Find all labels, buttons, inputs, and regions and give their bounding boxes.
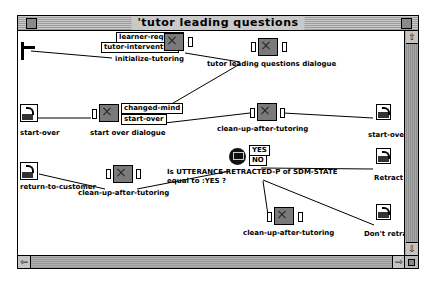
retract-icon[interactable] bbox=[376, 148, 391, 164]
cleanup-label-3: clean-up-after-tutoring bbox=[243, 229, 334, 237]
output-tab[interactable] bbox=[298, 212, 303, 222]
connector-cleanup-to-startover bbox=[283, 113, 373, 118]
input-tab[interactable] bbox=[106, 169, 111, 179]
start-over-exit-icon[interactable] bbox=[376, 104, 391, 120]
cleanup-node-1[interactable] bbox=[257, 103, 277, 121]
connector-start-to-intervention bbox=[31, 51, 112, 58]
cleanup-label-1: clean-up-after-tutoring bbox=[217, 125, 308, 133]
scroll-up-arrow[interactable]: ⇧ bbox=[406, 31, 418, 44]
initialize-tutoring-node[interactable] bbox=[164, 33, 184, 51]
output-tab[interactable] bbox=[188, 37, 193, 47]
diagram-canvas: learner-request tutor-intervention initi… bbox=[18, 31, 404, 255]
connector-lines bbox=[1, 1, 431, 283]
start-over-out-label: start-over bbox=[368, 131, 408, 139]
condition-text-line2: equal to :YES ? bbox=[167, 177, 226, 185]
cleanup-node-2[interactable] bbox=[113, 165, 133, 183]
output-tab[interactable] bbox=[136, 169, 141, 179]
condition-no-port[interactable]: NO bbox=[249, 155, 267, 166]
input-tab[interactable] bbox=[92, 109, 97, 119]
start-over-icon[interactable] bbox=[20, 104, 38, 122]
scroll-down-arrow[interactable]: ⇩ bbox=[406, 242, 418, 255]
diagram-window: 'tutor leading questions bbox=[17, 15, 419, 269]
port-changed-mind[interactable]: changed-mind bbox=[121, 103, 183, 114]
cleanup-label-2: clean-up-after-tutoring bbox=[78, 189, 169, 197]
retract-label: Retract bbox=[374, 174, 403, 182]
scroll-left-arrow[interactable]: ⇦ bbox=[18, 256, 31, 268]
start-over-dialogue-node[interactable] bbox=[99, 104, 119, 122]
connector-startover-port-to-cleanup bbox=[156, 113, 250, 124]
condition-node[interactable] bbox=[229, 148, 246, 165]
output-tab[interactable] bbox=[280, 108, 285, 118]
return-to-customer-icon[interactable] bbox=[20, 162, 38, 180]
input-tab[interactable] bbox=[250, 108, 255, 118]
dont-retract-icon[interactable] bbox=[376, 204, 391, 220]
tutor-dialogue-node[interactable] bbox=[258, 38, 278, 56]
input-tab[interactable] bbox=[267, 212, 272, 222]
tutor-dialogue-label: tutor leading questions dialogue bbox=[207, 60, 336, 68]
output-tab[interactable] bbox=[282, 42, 287, 52]
input-tab[interactable] bbox=[251, 42, 256, 52]
grow-box[interactable] bbox=[404, 255, 418, 268]
vertical-scrollbar[interactable]: ⇧ ⇩ bbox=[404, 31, 418, 255]
port-start-over[interactable]: start-over bbox=[121, 114, 167, 125]
start-over-in-label: start-over bbox=[20, 129, 60, 137]
start-over-dialogue-label: start over dialogue bbox=[90, 129, 166, 137]
initialize-tutoring-label: initialize-tutoring bbox=[115, 55, 184, 63]
condition-text-line1: Is UTTERANCE-RETRACTED-P of SDM-STATE bbox=[167, 168, 337, 176]
cleanup-node-3[interactable] bbox=[274, 207, 294, 225]
horizontal-scrollbar[interactable]: ⇦ ⇨ bbox=[18, 255, 405, 268]
